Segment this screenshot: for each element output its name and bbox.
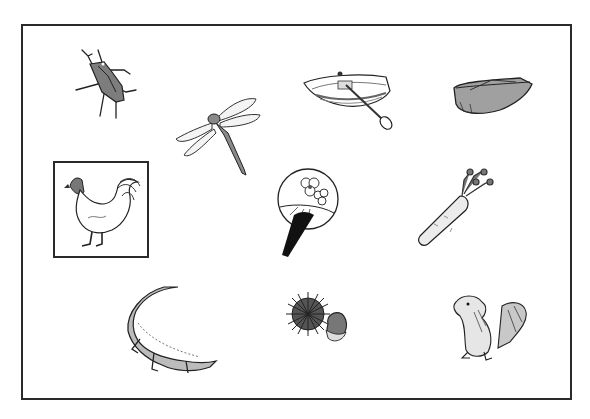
picture-card-sled[interactable]: sled xyxy=(450,72,538,120)
dragonfly-icon xyxy=(172,93,264,183)
picture-card-chestnut[interactable]: chestnut xyxy=(284,290,356,348)
chestnut-icon xyxy=(284,290,356,348)
picture-card-crocodile[interactable]: crocodile xyxy=(124,283,220,378)
picture-card-chipmunk[interactable]: chipmunk xyxy=(446,292,530,364)
sled-icon xyxy=(450,72,538,120)
rowboat-icon xyxy=(302,69,400,131)
fan-icon xyxy=(276,165,346,263)
carrot-icon xyxy=(414,166,494,250)
picture-card-fan[interactable]: fan xyxy=(276,165,346,263)
picture-card-carrot[interactable]: carrot xyxy=(414,166,494,250)
picture-card-dragonfly[interactable]: dragonfly xyxy=(172,93,264,183)
picture-card-beetle[interactable]: beetle xyxy=(68,42,152,124)
crocodile-icon xyxy=(124,283,220,378)
rooster-icon xyxy=(58,166,144,252)
chipmunk-icon xyxy=(446,292,530,364)
picture-card-rowboat[interactable]: rowboat xyxy=(302,69,400,131)
beetle-icon xyxy=(68,42,152,124)
picture-card-rooster[interactable]: rooster xyxy=(58,166,144,252)
